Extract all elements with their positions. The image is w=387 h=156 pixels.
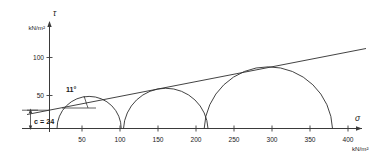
x-tick-label: 150 [152,136,163,143]
mohr-circle-2 [124,88,209,128]
x-tick-label: 350 [304,136,315,143]
mohr-circles [57,67,333,129]
x-tick-label: 400 [342,136,353,143]
y-tick-label: 100 [33,54,44,61]
failure-envelope-line [27,49,366,115]
cohesion-arrow-down [29,126,32,131]
mohr-circle-1 [57,96,121,128]
x-tick-label: 50 [78,136,86,143]
failure-envelope [27,49,366,115]
plot-canvas: 50 100 150 200 250 300 350 400 σ kN/m² 5… [0,0,387,156]
y-axis-arrowhead [47,21,51,27]
y-axis-symbol-tau: τ [53,8,57,18]
y-axis-unit-label: kN/m² [29,24,46,31]
x-tick-label: 250 [228,136,239,143]
mohr-coulomb-figure: 50 100 150 200 250 300 350 400 σ kN/m² 5… [0,0,387,156]
x-axis-symbol-sigma: σ [355,113,361,123]
x-tick-label: 100 [114,136,125,143]
cohesion-label: c = 24 [34,117,54,126]
friction-angle-arc [86,103,88,108]
cohesion-arrow-up [29,109,32,114]
x-axis: 50 100 150 200 250 300 350 400 σ kN/m² [22,113,369,152]
y-tick-label: 50 [37,92,45,99]
x-axis-unit-label: kN/m² [352,145,369,152]
x-tick-label: 300 [266,136,277,143]
friction-angle-label: 11° [66,85,77,94]
x-axis-arrowhead [356,126,362,130]
x-tick-label: 200 [190,136,201,143]
